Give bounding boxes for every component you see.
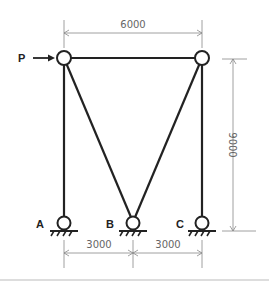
support-label-b: B [106,218,114,230]
dim-bottom-right: 3000 [155,239,180,250]
support-label-a: A [36,218,44,230]
dim-top-span: 6000 [120,19,145,30]
dim-height: 9000 [227,132,238,157]
dim-bottom-left: 3000 [86,239,111,250]
joint-top-left [57,51,71,65]
load-arrow-icon [33,55,55,62]
support-label-c: C [176,218,184,230]
left-diagonal [64,58,133,222]
joint-top-right [195,51,209,65]
truss-diagram: P A B C 6000 9000 3000 3000 [0,0,269,288]
right-diagonal [133,58,202,222]
load-label: P [18,52,25,64]
truss-members [64,58,202,222]
support-c [188,217,216,237]
support-a [50,217,78,237]
support-b [119,217,147,237]
